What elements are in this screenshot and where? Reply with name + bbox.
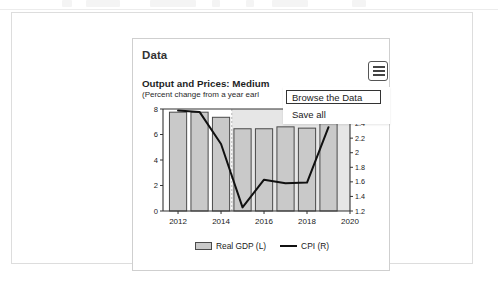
svg-text:6: 6 <box>154 130 158 139</box>
browser-toolbar-strip <box>0 0 498 11</box>
toolbar-icon-ghost <box>212 0 220 7</box>
toolbar-icon-ghost <box>62 0 72 7</box>
line-swatch-icon <box>280 245 297 247</box>
svg-text:4: 4 <box>154 156 158 165</box>
toolbar-icon-ghost <box>272 0 308 7</box>
chart-legend: Real GDP (L) CPI (R) <box>133 241 391 251</box>
menu-item-save-all[interactable]: Save all <box>287 107 385 120</box>
svg-text:2014: 2014 <box>212 217 230 226</box>
hamburger-menu-icon[interactable] <box>368 61 388 81</box>
svg-text:1.2: 1.2 <box>355 207 365 216</box>
chart-title: Output and Prices: Medium <box>142 78 269 89</box>
svg-text:2: 2 <box>355 148 359 157</box>
toolbar-icon-ghost <box>352 0 366 7</box>
toolbar-icon-ghost <box>86 0 120 7</box>
legend-label: Real GDP (L) <box>216 241 266 251</box>
svg-text:2016: 2016 <box>255 217 273 226</box>
svg-text:2: 2 <box>154 181 158 190</box>
legend-item-real-gdp: Real GDP (L) <box>195 241 266 251</box>
svg-text:0: 0 <box>154 207 158 216</box>
svg-text:1.8: 1.8 <box>355 163 365 172</box>
context-menu[interactable]: Browse the Data Save all <box>283 87 390 124</box>
menu-item-browse-the-data[interactable]: Browse the Data <box>286 90 381 104</box>
svg-text:1.6: 1.6 <box>355 177 365 186</box>
toolbar-divider <box>0 9 498 10</box>
hamburger-bar <box>373 66 385 68</box>
svg-text:2012: 2012 <box>169 217 187 226</box>
toolbar-icon-ghost <box>150 0 196 7</box>
hamburger-bar <box>373 70 385 72</box>
svg-text:2.2: 2.2 <box>355 134 365 143</box>
legend-label: CPI (R) <box>301 241 329 251</box>
svg-text:1.4: 1.4 <box>355 192 365 201</box>
hamburger-bar <box>373 74 385 76</box>
bar-swatch-icon <box>195 242 212 250</box>
svg-text:8: 8 <box>154 105 158 114</box>
svg-text:2018: 2018 <box>298 217 316 226</box>
toolbar-icon-ghost <box>246 0 254 7</box>
page-title: Data <box>142 49 167 61</box>
chart-subtitle: (Percent change from a year earl <box>142 90 259 99</box>
data-card: Data Output and Prices: Medium (Percent … <box>132 38 390 271</box>
svg-text:2020: 2020 <box>341 217 359 226</box>
document-panel: Data Output and Prices: Medium (Percent … <box>11 12 473 264</box>
legend-item-cpi: CPI (R) <box>280 241 329 251</box>
